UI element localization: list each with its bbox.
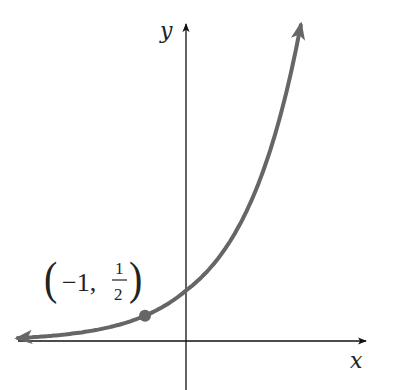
x-axis-label: x [350, 348, 363, 373]
point-marker [139, 310, 151, 322]
coordinate-plane: y x ( −1, 1 2 ) [0, 0, 393, 390]
graph: y x ( −1, 1 2 ) [0, 0, 393, 390]
point-label: ( −1, 1 2 ) [44, 254, 142, 305]
svg-text:): ) [129, 254, 142, 305]
exponential-curve [18, 25, 301, 338]
y-axis-label: y [159, 18, 173, 43]
svg-text:2: 2 [114, 285, 123, 304]
svg-text:(: ( [44, 254, 57, 305]
svg-text:1: 1 [115, 259, 124, 278]
svg-text:−1,: −1, [62, 268, 96, 297]
